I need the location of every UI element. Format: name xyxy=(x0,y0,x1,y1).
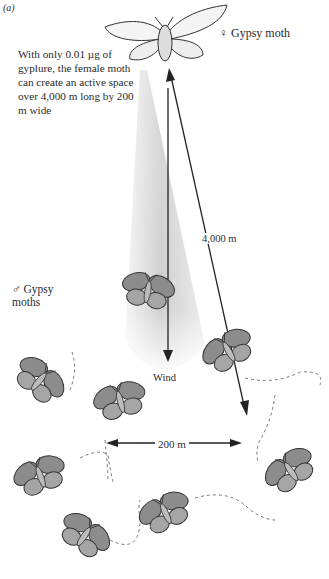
male-moth-icon xyxy=(5,446,73,501)
wind-label: Wind xyxy=(153,372,176,383)
panel-label: (a) xyxy=(3,2,15,13)
flight-path-lines xyxy=(70,352,321,545)
male-moth-icon xyxy=(51,502,121,566)
width-arrow-right-icon xyxy=(230,439,242,447)
width-arrow-left-icon xyxy=(106,439,118,447)
male-moth-icon xyxy=(6,346,75,412)
distance-label: 4,000 m xyxy=(201,233,237,244)
width-label: 200 m xyxy=(155,438,189,450)
male-moth-icon xyxy=(254,437,324,501)
female-moth-label: ♀ Gypsy moth xyxy=(219,26,290,41)
male-moth-icon xyxy=(130,481,199,540)
caption-text: With only 0.01 µg of gyplure, the female… xyxy=(18,47,138,117)
male-moths-label: ♂ Gypsy moths xyxy=(12,283,72,309)
distance-arrow-down-icon xyxy=(240,400,249,416)
distance-arrow-up-icon xyxy=(166,68,175,82)
male-moth-icon xyxy=(86,373,153,424)
